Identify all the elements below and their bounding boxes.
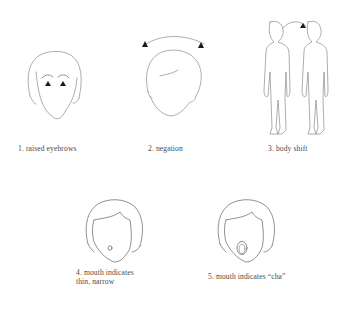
figure-raised-eyebrows xyxy=(24,48,86,124)
body-shift-icon xyxy=(256,18,334,140)
figure-negation xyxy=(140,36,210,122)
mouth-narrow xyxy=(108,246,112,250)
caption-mouth-narrow: 4. mouth indicates thin, narrow xyxy=(76,268,134,286)
figure-mouth-cha xyxy=(214,198,280,266)
caption-raised-eyebrows: 1. raised eyebrows xyxy=(18,144,77,153)
caption-mouth-narrow-line2: thin, narrow xyxy=(76,277,134,286)
caption-negation: 2. negation xyxy=(148,144,183,153)
arrow-right-marker xyxy=(198,42,204,48)
face-raised-eyebrows-icon xyxy=(24,48,86,124)
arrow-left-marker xyxy=(142,41,148,47)
head-shake-icon xyxy=(140,36,210,122)
face-narrow-mouth-icon xyxy=(82,198,148,266)
caption-mouth-cha: 5. mouth indicates “cha” xyxy=(208,272,285,281)
face-open-mouth-icon xyxy=(214,198,280,266)
mouth-open xyxy=(237,242,247,255)
caption-mouth-narrow-line1: 4. mouth indicates xyxy=(76,268,134,277)
figure-mouth-narrow xyxy=(82,198,148,266)
figure-body-shift xyxy=(256,18,334,140)
caption-body-shift: 3. body shift xyxy=(268,144,307,153)
